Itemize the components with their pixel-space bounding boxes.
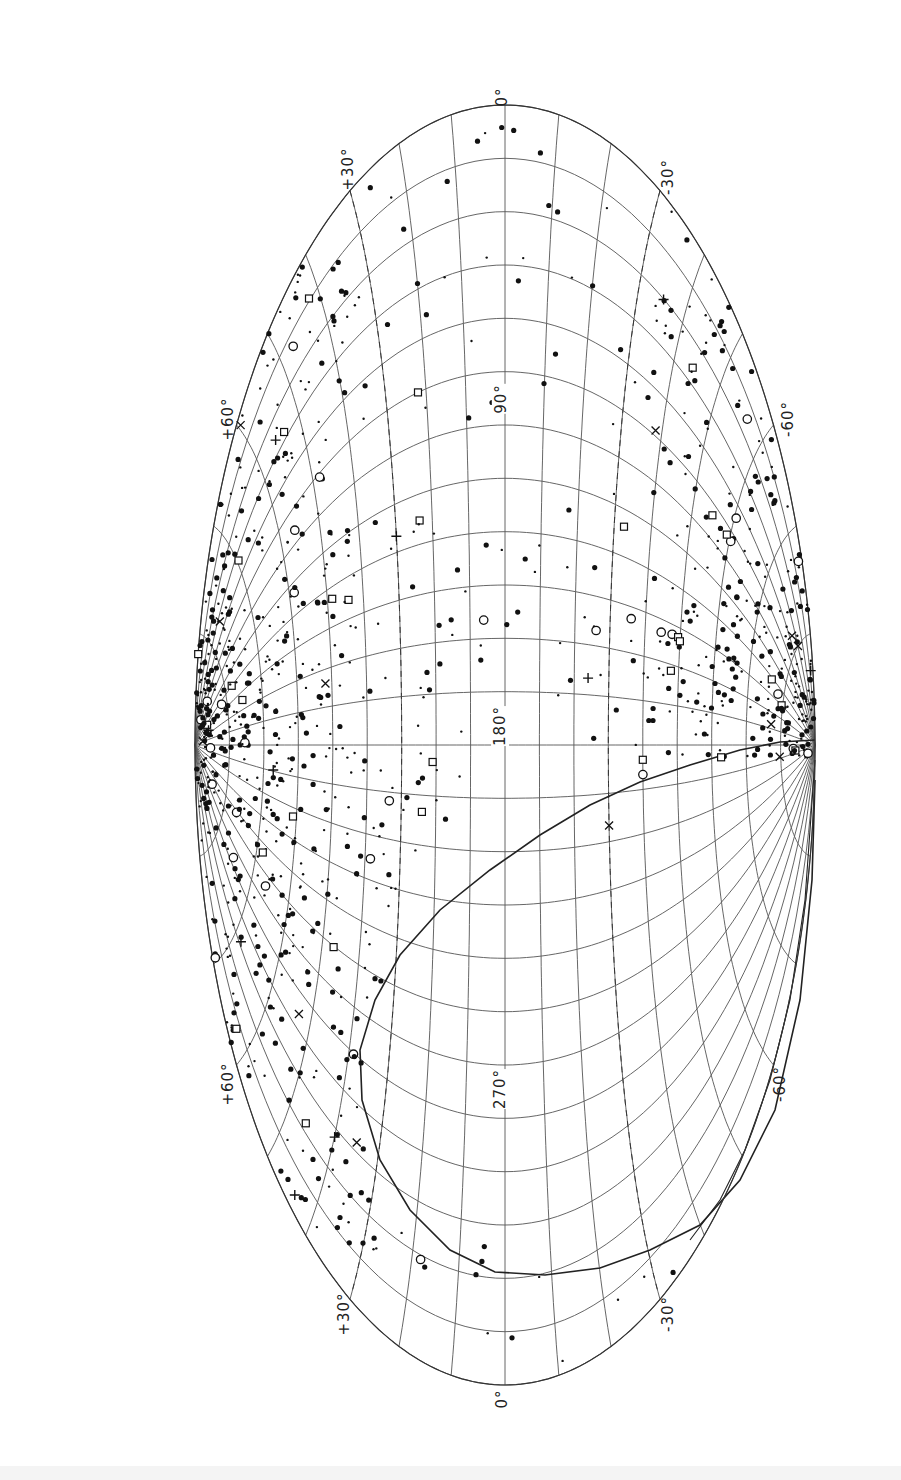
object-dot xyxy=(335,360,337,362)
object-dot xyxy=(276,784,278,786)
object-dot xyxy=(470,340,472,342)
object-dot xyxy=(321,880,323,882)
object-dot xyxy=(387,905,389,907)
object-dot xyxy=(228,649,230,651)
object-dot xyxy=(329,933,331,935)
object-dot xyxy=(299,274,301,276)
object-dot xyxy=(592,565,597,570)
object-dot xyxy=(320,703,322,705)
object-dot xyxy=(230,646,235,651)
object-dot xyxy=(209,732,211,734)
object-dot xyxy=(337,1215,342,1220)
object-dot xyxy=(213,722,215,724)
object-circle xyxy=(291,526,299,534)
object-dot xyxy=(418,523,420,525)
object-dot xyxy=(196,705,198,707)
object-dot xyxy=(318,461,320,463)
object-dot xyxy=(242,734,247,739)
object-dot xyxy=(420,776,425,781)
object-dot xyxy=(424,670,429,675)
object-dot xyxy=(751,639,756,644)
object-dot xyxy=(337,724,342,729)
object-dot xyxy=(241,414,243,416)
object-dot xyxy=(666,750,671,755)
object-dot xyxy=(214,771,216,773)
object-dot xyxy=(260,677,262,679)
object-dot xyxy=(223,651,228,656)
object-dot xyxy=(705,714,707,716)
object-dot xyxy=(785,626,787,628)
object-dot xyxy=(338,1030,343,1035)
object-dot xyxy=(809,663,811,665)
object-dot xyxy=(323,829,325,831)
object-dot xyxy=(268,878,270,880)
object-dot xyxy=(244,648,246,650)
object-dot xyxy=(227,848,229,850)
object-dot xyxy=(368,185,373,190)
object-dot xyxy=(282,922,287,927)
object-dot xyxy=(211,631,216,636)
object-dot xyxy=(339,684,341,686)
object-dot xyxy=(266,364,268,366)
object-dot xyxy=(718,323,723,328)
object-dot xyxy=(238,775,240,777)
object-dot xyxy=(799,732,804,737)
object-dot xyxy=(276,744,278,746)
object-dot xyxy=(206,629,208,631)
object-dot xyxy=(244,724,249,729)
object-dot xyxy=(811,716,816,721)
object-dot xyxy=(708,535,710,537)
object-dot xyxy=(218,502,223,507)
object-dot xyxy=(390,196,392,198)
object-dot xyxy=(235,681,237,683)
object-cross xyxy=(321,680,329,688)
object-dot xyxy=(241,487,243,489)
object-dot xyxy=(340,1115,342,1117)
object-dot xyxy=(693,486,698,491)
object-dot xyxy=(200,691,202,693)
object-dot xyxy=(798,566,800,568)
object-dot xyxy=(741,618,743,620)
object-dot xyxy=(304,731,309,736)
object-square xyxy=(768,676,775,683)
object-dot xyxy=(223,748,228,753)
object-dot xyxy=(203,759,205,761)
object-dot xyxy=(358,296,360,298)
object-dot xyxy=(286,913,291,918)
object-dot xyxy=(215,683,217,685)
object-dot xyxy=(794,696,796,698)
object-dot xyxy=(347,806,349,808)
object-dot xyxy=(726,656,731,661)
object-dot xyxy=(686,454,691,459)
object-dot xyxy=(271,459,276,464)
object-dot xyxy=(226,803,231,808)
object-dot xyxy=(785,726,790,731)
object-dot xyxy=(372,1236,377,1241)
object-dot xyxy=(696,615,698,617)
object-circle xyxy=(794,557,802,565)
object-dot xyxy=(805,720,807,722)
object-dot xyxy=(205,876,207,878)
object-dot xyxy=(236,457,241,462)
object-dot xyxy=(204,789,209,794)
object-dot xyxy=(706,734,708,736)
object-cross xyxy=(353,1139,361,1147)
object-square xyxy=(415,389,422,396)
object-dot xyxy=(200,800,202,802)
object-dot xyxy=(760,417,762,419)
object-dot xyxy=(335,748,337,750)
object-dot xyxy=(681,753,683,755)
object-dot xyxy=(300,532,305,537)
object-dot xyxy=(255,615,260,620)
object-dot xyxy=(723,344,725,346)
object-dot xyxy=(555,209,560,214)
object-circle xyxy=(743,415,751,423)
object-circle xyxy=(657,628,665,636)
object-dot xyxy=(229,1040,234,1045)
object-dot xyxy=(738,399,740,401)
object-dot xyxy=(246,537,251,542)
object-dot xyxy=(326,563,328,565)
latitude-label-minus30-top: -30° xyxy=(659,159,677,195)
object-dot xyxy=(682,620,684,622)
object-dot xyxy=(458,775,460,777)
